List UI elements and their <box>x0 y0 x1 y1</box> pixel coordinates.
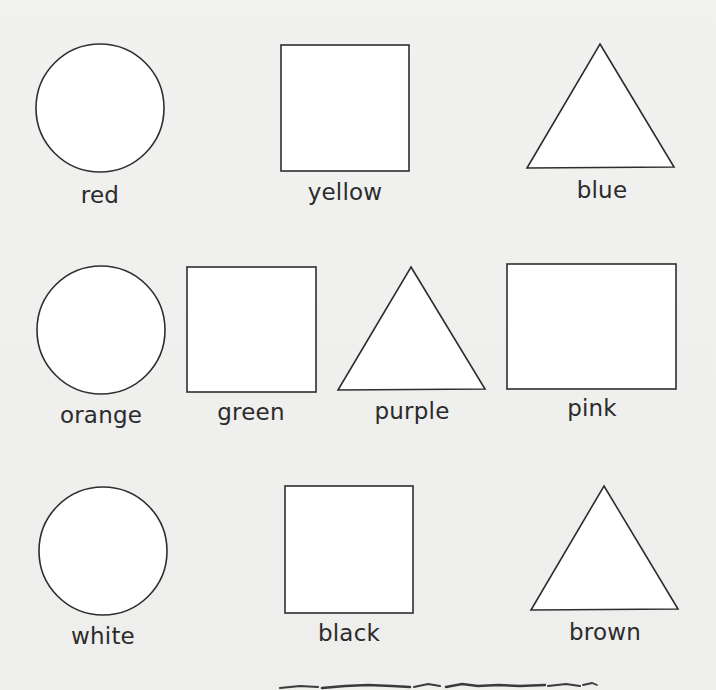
torn-edge-line <box>280 683 597 688</box>
label-brown: brown <box>569 621 641 644</box>
green-square-shape[interactable] <box>187 267 316 392</box>
label-green: green <box>217 401 284 424</box>
yellow-square-shape[interactable] <box>281 45 409 171</box>
purple-triangle-shape[interactable] <box>338 267 485 390</box>
coloring-worksheet: red yellow blue orange green purple pink… <box>0 0 716 690</box>
white-circle-shape[interactable] <box>39 487 167 615</box>
shapes-canvas <box>0 0 716 690</box>
label-red: red <box>81 184 119 207</box>
label-yellow: yellow <box>308 181 383 204</box>
black-square-shape[interactable] <box>285 486 413 613</box>
label-purple: purple <box>375 400 450 423</box>
blue-triangle-shape[interactable] <box>527 44 674 168</box>
label-pink: pink <box>567 397 617 420</box>
orange-circle-shape[interactable] <box>37 266 165 394</box>
label-white: white <box>71 625 135 648</box>
label-black: black <box>318 622 380 645</box>
pink-rectangle-shape[interactable] <box>507 264 676 389</box>
red-circle-shape[interactable] <box>36 44 164 172</box>
brown-triangle-shape[interactable] <box>531 486 678 610</box>
label-orange: orange <box>60 404 142 427</box>
label-blue: blue <box>577 179 628 202</box>
